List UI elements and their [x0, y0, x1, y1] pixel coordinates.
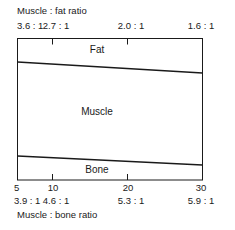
bottom-axis-tick-label-2: 5.3 : 1 [118, 195, 144, 206]
x-axis-tick-label-0: 5 [14, 182, 19, 193]
bottom-axis-tick-label-3: 5.9 : 1 [188, 195, 214, 206]
x-axis-tick-label-2: 20 [123, 182, 134, 193]
x-axis-tick-label-3: 30 [196, 182, 207, 193]
bottom-axis-title: Muscle : bone ratio [17, 209, 97, 220]
x-axis-tick-label-1: 10 [48, 182, 59, 193]
body-composition-chart: Muscle : fat ratio 3.6 : 1 2.7 : 1 2.0 :… [0, 0, 235, 230]
band-label-fat: Fat [90, 44, 104, 56]
band-label-muscle: Muscle [81, 106, 113, 118]
bottom-axis-tick-label-0: 3.9 : 1 [14, 195, 40, 206]
bottom-axis-tick-label-1: 4.6 : 1 [43, 195, 69, 206]
band-label-bone: Bone [85, 164, 108, 176]
